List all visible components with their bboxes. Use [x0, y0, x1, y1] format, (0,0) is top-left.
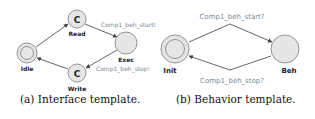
initial-state-ring-icon: [166, 40, 185, 59]
state-idle: Idle: [17, 43, 37, 72]
committed-mark-icon: C: [74, 69, 81, 79]
state-exec: Exec: [115, 32, 137, 63]
state-write: C Write: [68, 64, 86, 92]
edge-label-stop: Comp1_beh_stop!: [96, 65, 150, 73]
state-label-init: Init: [163, 67, 177, 75]
edge-write-idle: [37, 58, 68, 69]
state-beh: Beh: [271, 35, 299, 75]
state-label-exec: Exec: [118, 56, 134, 63]
state-label-read: Read: [68, 30, 85, 37]
edge-label-start: Comp1_beh_start!: [101, 21, 156, 29]
caption-a: (a) Interface template.: [20, 93, 140, 105]
edge-init-beh: [189, 24, 272, 42]
state-init: Init: [161, 35, 189, 75]
state-read: C Read: [68, 10, 86, 37]
state-label-beh: Beh: [281, 67, 296, 75]
edge-idle-read: [36, 24, 68, 47]
edge-label-start: Comp1_beh_start?: [199, 13, 264, 21]
committed-mark-icon: C: [74, 15, 81, 25]
state-label-write: Write: [68, 85, 86, 92]
behavior-template: Init Beh Comp1_beh_start? Comp1_beh_stop…: [161, 13, 299, 85]
edge-label-stop: Comp1_beh_stop?: [200, 77, 264, 85]
state-label-idle: Idle: [21, 65, 34, 72]
interface-template: Idle C Read Exec C Write Comp1_beh_start…: [17, 10, 156, 92]
initial-state-ring-icon: [21, 47, 34, 60]
edge-beh-init: [189, 56, 271, 70]
caption-b: (b) Behavior template.: [176, 93, 296, 105]
